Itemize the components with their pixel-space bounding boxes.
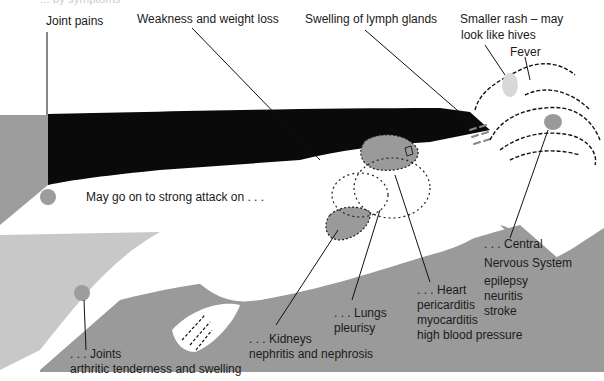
cns-condition: stroke <box>484 304 517 319</box>
heart-condition: high blood pressure <box>417 328 522 343</box>
heart-condition: myocarditis <box>417 313 478 328</box>
cns-spot <box>544 114 562 130</box>
heart-title: . . . Heart <box>417 283 466 298</box>
label-rash-line1: Smaller rash – may <box>460 12 563 27</box>
joints-title: . . . Joints <box>70 347 121 362</box>
label-rash-line2: look like hives <box>461 28 536 43</box>
kidneys-title: . . . Kidneys <box>249 332 312 347</box>
lupus-symptoms-diagram: ... by symptoms Joint pains Weakness and… <box>0 0 604 381</box>
joint-circle-elbow <box>74 285 90 301</box>
header-fragment: ... by symptoms <box>40 0 121 7</box>
rash-spot <box>502 73 518 97</box>
label-joint-pains: Joint pains <box>46 14 103 29</box>
cns-title-line1: . . . Central <box>484 237 543 252</box>
lungs-condition: pleurisy <box>334 321 375 336</box>
label-fever: Fever <box>510 45 541 60</box>
label-lymph-glands: Swelling of lymph glands <box>305 12 437 27</box>
heart-condition: pericarditis <box>417 298 475 313</box>
left-gray-panel <box>0 115 48 225</box>
intro-text: May go on to strong attack on . . . <box>86 190 264 205</box>
lungs-title: . . . Lungs <box>334 306 387 321</box>
cns-condition: epilepsy <box>484 274 528 289</box>
label-weakness: Weakness and weight loss <box>137 12 279 27</box>
cns-title-line2: Nervous System <box>484 256 572 271</box>
cns-condition: neuritis <box>484 289 523 304</box>
joint-circle-shoulder <box>40 189 56 205</box>
joints-condition: arthritic tenderness and swelling <box>70 362 241 377</box>
kidneys-condition: nephritis and nephrosis <box>249 347 373 362</box>
